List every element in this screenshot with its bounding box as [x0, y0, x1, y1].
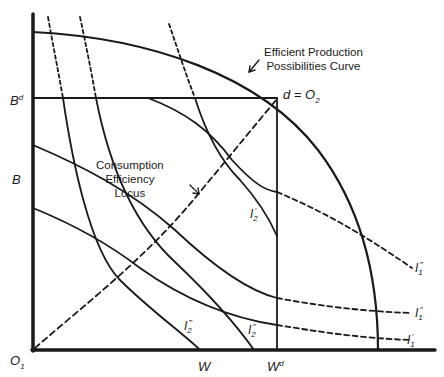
indifference-curve-i1-prime-extension [277, 325, 410, 340]
locus-annotation: Consumption Efficiency Locus [96, 158, 164, 200]
label-b: B [12, 173, 21, 186]
indifference-curve-i1-prime [33, 208, 277, 325]
label-i2-prime: I2′ [250, 206, 256, 223]
edgeworth-box-diagram [0, 0, 444, 377]
locus-annotation-line2: Efficiency [96, 172, 164, 186]
indifference-curve-i2-triple-prime-extension [48, 17, 63, 98]
production-possibilities-curve [33, 32, 378, 350]
label-w: W [198, 360, 210, 373]
indifference-curve-i2-double-prime-extension [80, 17, 96, 98]
label-wd: Wd [267, 357, 284, 373]
indifference-curve-i2-prime [195, 98, 277, 236]
indifference-curve-i2-prime-extension [169, 24, 195, 98]
ppc-pointer-arrow [249, 60, 259, 72]
ppc-annotation-line1: Efficient Production [264, 45, 363, 59]
label-i1-prime: I1′ [407, 332, 413, 349]
indifference-curve-i2-double-prime [96, 98, 254, 350]
label-bd: Bd [10, 91, 23, 107]
label-origin-o1: O1 [10, 354, 25, 373]
locus-pointer-arrow [190, 185, 199, 194]
label-i2-triple-prime: I2‴ [184, 318, 192, 335]
consumption-efficiency-locus [35, 99, 277, 348]
locus-annotation-line1: Consumption [96, 158, 164, 172]
ppc-annotation-line2: Possibilities Curve [264, 59, 363, 73]
label-i1-double-prime: I1″ [415, 305, 423, 322]
locus-annotation-line3: Locus [96, 186, 164, 200]
indifference-curve-i1-triple-prime-extension [277, 192, 412, 268]
label-i1-triple-prime: I1‴ [415, 260, 423, 277]
label-point-d-o2: d = O2 [283, 88, 320, 107]
indifference-curve-i2-triple-prime [63, 98, 200, 350]
ppc-annotation: Efficient Production Possibilities Curve [264, 45, 363, 73]
indifference-curve-i1-double-prime-extension [277, 298, 410, 313]
label-i2-double-prime: I2″ [248, 322, 256, 339]
